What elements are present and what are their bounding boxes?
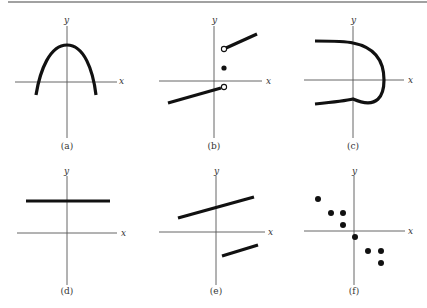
panel-e: y x (e) [159,166,273,296]
data-point [340,222,346,228]
sideways-u-curve [315,41,384,104]
lower-segment [222,245,258,256]
function-graphs-figure: y x (a) y x (b) y x (c) y x (d) [0,0,427,308]
y-axis-label: y [211,15,218,25]
x-axis-label: x [119,76,124,86]
x-axis-label: x [268,227,273,237]
y-axis-label: y [350,15,357,25]
open-circle-lower [221,84,226,89]
panel-label-c: (c) [347,141,359,151]
data-point [378,248,384,254]
x-axis-label: x [121,228,126,238]
panel-c: y x (c) [304,15,413,151]
data-point [352,234,358,240]
panel-b: y x (b) [159,15,271,151]
y-axis-label: y [351,166,358,176]
parabola-curve [36,45,96,95]
panel-a: y x (a) [15,15,124,151]
filled-point [221,65,226,70]
data-point [328,210,334,216]
x-axis-label: x [408,75,413,85]
panel-d: y x (d) [17,166,126,296]
y-axis-label: y [213,166,220,176]
panel-label-e: (e) [210,286,222,296]
lower-segment [168,88,221,103]
upper-segment [226,34,257,48]
open-circle-upper [221,46,226,51]
data-point [378,260,384,266]
x-axis-label: x [266,76,271,86]
data-point [340,210,346,216]
panel-label-d: (d) [61,286,74,296]
panel-label-b: (b) [208,141,221,151]
y-axis-label: y [63,166,70,176]
y-axis-label: y [63,15,70,25]
panel-f: y x (f) [304,166,413,296]
x-axis-label: x [408,226,413,236]
data-point [365,248,371,254]
panel-label-a: (a) [61,141,73,151]
data-point [315,196,321,202]
panel-label-f: (f) [349,286,359,296]
